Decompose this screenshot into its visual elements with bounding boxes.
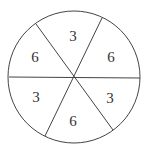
sector-label-lower-right: 3: [106, 90, 114, 106]
sector-label-upper-left: 6: [31, 49, 39, 65]
spinner-diagram: 3 6 3 6 3 6: [0, 0, 148, 150]
sector-label-top: 3: [69, 28, 77, 44]
sector-label-lower-left: 3: [32, 89, 40, 105]
sector-label-bottom: 6: [69, 113, 77, 129]
sector-label-upper-right: 6: [107, 49, 115, 65]
